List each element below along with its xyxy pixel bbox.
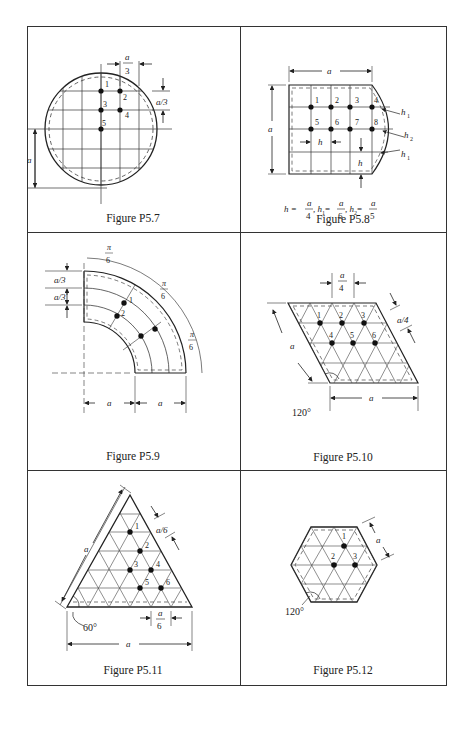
- node-label: 4: [374, 96, 378, 105]
- dim-label: a/6: [156, 525, 168, 535]
- dim-label: 1: [407, 155, 410, 161]
- node-label: 3: [361, 311, 365, 320]
- dim-label: h: [318, 137, 323, 147]
- dim-label: a: [126, 639, 131, 649]
- node-label: 5: [350, 331, 354, 340]
- angle-label: 60°: [83, 622, 97, 633]
- dim-label: a: [84, 544, 89, 554]
- angle-label: 120°: [285, 606, 304, 617]
- angle-label: 6: [161, 292, 165, 301]
- dim-label: a: [340, 270, 345, 280]
- node-label: 4: [329, 331, 333, 340]
- dim-label: a/3: [54, 275, 66, 285]
- angle-label: 6: [106, 256, 110, 265]
- svg-text:a: a: [371, 198, 376, 208]
- node-label: 3: [134, 560, 138, 569]
- angle-label: π: [162, 279, 167, 288]
- node-label: 1: [105, 80, 109, 89]
- svg-text:a: a: [339, 198, 344, 208]
- node-label: 3: [103, 100, 107, 109]
- dim-label: a: [158, 398, 163, 408]
- figure-caption: Figure P5.10: [238, 451, 448, 463]
- node-label: 2: [123, 93, 127, 102]
- node-label: 1: [315, 96, 319, 105]
- angle-label: 6: [189, 343, 193, 352]
- node-label: 1: [129, 296, 133, 305]
- node-label: 5: [102, 119, 106, 128]
- figure-p5-9-diagram: 1 2 a/3 a/3 π 6 π 6 π 6 a a: [27, 233, 240, 470]
- node-label: 2: [121, 309, 125, 318]
- figure-caption: Figure P5.9: [28, 450, 238, 462]
- angle-label: 120°: [292, 407, 311, 418]
- node-label: 2: [335, 96, 339, 105]
- figure-p5-11-diagram: 1 2 3 4 5 6 a a/6 a 6 a 60°: [27, 471, 240, 686]
- figure-caption: Figure P5.7: [28, 212, 238, 224]
- node-label: 1: [135, 522, 139, 531]
- dim-label: 1: [407, 113, 410, 119]
- dim-label: a: [158, 608, 163, 618]
- node-label: 8: [374, 118, 378, 127]
- dim-label: 6: [157, 621, 162, 631]
- node-label: 2: [339, 311, 343, 320]
- figure-caption: Figure P5.11: [28, 664, 238, 676]
- figure-caption: Figure P5.12: [238, 664, 448, 676]
- node-label: 1: [342, 532, 346, 541]
- figure-p5-10-diagram: 1 2 3 4 5 6 a 4 a/4 a a 120°: [240, 233, 447, 470]
- svg-text:a: a: [307, 198, 312, 208]
- node-label: 2: [331, 552, 335, 561]
- dim-label: a: [376, 535, 381, 545]
- node-label: 6: [166, 578, 170, 587]
- node-label: 6: [335, 118, 339, 127]
- dim-label: 2: [410, 136, 413, 142]
- node-label: 7: [355, 118, 359, 127]
- dim-label: a: [268, 124, 273, 134]
- node-label: 5: [315, 118, 319, 127]
- node-label: 4: [125, 111, 129, 120]
- node-label: 1: [317, 311, 321, 320]
- node-label: 6: [372, 331, 376, 340]
- figure-p5-12-diagram: 1 2 3 a 120°: [240, 471, 447, 686]
- node-label: 3: [353, 552, 357, 561]
- node-label: 2: [145, 541, 149, 550]
- dim-label: a: [27, 155, 32, 165]
- dim-label: a: [290, 341, 295, 351]
- dim-label: 3: [125, 66, 130, 76]
- dim-label: h: [404, 130, 409, 140]
- dim-label: 4: [339, 283, 344, 293]
- dim-label: h: [401, 107, 406, 117]
- dim-label: a: [369, 393, 374, 403]
- dim-label: a/4: [397, 315, 409, 325]
- dim-label: a: [327, 66, 332, 76]
- node-label: 5: [145, 578, 149, 587]
- figure-caption: Figure P5.8: [238, 213, 448, 225]
- figure-p5-8-diagram: 1 2 3 4 5 6 7 8 a a h h h1 h2 h1 h = a 4…: [240, 26, 447, 232]
- dim-label: a: [125, 52, 130, 62]
- dim-label: h: [358, 158, 363, 168]
- dim-label: h: [401, 149, 406, 159]
- node-label: 4: [156, 560, 160, 569]
- figure-p5-7-diagram: 1 2 3 4 5 a 3 a/3 a: [27, 26, 240, 232]
- node-label: 3: [355, 96, 359, 105]
- dim-label: a: [107, 398, 112, 408]
- dim-label: a/3: [156, 97, 168, 107]
- dim-label: a/3: [54, 292, 66, 302]
- angle-label: π: [107, 243, 112, 252]
